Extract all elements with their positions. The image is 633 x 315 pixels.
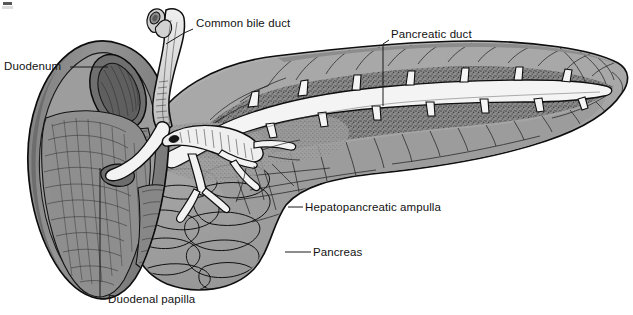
pancreas-organ [127,41,628,292]
label-text-pancreatic-duct: Pancreatic duct [391,28,472,40]
label-text-pancreas: Pancreas [313,246,363,258]
label-text-hepatopancreatic-ampulla: Hepatopancreatic ampulla [305,201,442,213]
corner-artifact [3,2,12,5]
corner-artifact-faint [2,6,13,9]
label-pancreas: Pancreas [285,246,363,258]
anatomy-figure: Common bile duct Pancreatic duct Duodenu… [0,0,633,315]
label-text-common-bile-duct: Common bile duct [196,17,291,29]
anatomy-illustration: Common bile duct Pancreatic duct Duodenu… [0,0,633,315]
label-text-duodenal-papilla: Duodenal papilla [108,293,196,305]
label-text-duodenum: Duodenum [4,60,61,72]
label-hepatopancreatic-ampulla: Hepatopancreatic ampulla [288,201,442,213]
